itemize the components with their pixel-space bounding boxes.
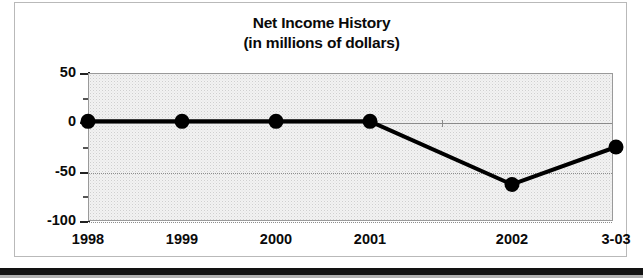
y-tick--100 [80, 221, 88, 223]
data-point-2002 [505, 177, 520, 192]
chart-subtitle: (in millions of dollars) [15, 33, 628, 53]
chart-frame: Net Income History (in millions of dolla… [14, 2, 627, 257]
page-bottom-rule [0, 268, 643, 275]
chart-page: Net Income History (in millions of dolla… [0, 0, 643, 278]
x-axis-label-1998: 1998 [48, 231, 128, 247]
data-point-2001 [363, 114, 378, 129]
x-axis-label-2001: 2001 [330, 231, 410, 247]
series-polyline [88, 121, 616, 184]
series-markers [81, 114, 624, 192]
x-axis-label-2000: 2000 [236, 231, 316, 247]
data-point-1998 [81, 114, 96, 129]
gridline--100 [89, 222, 612, 223]
data-point-2000 [269, 114, 284, 129]
x-axis-label-1999: 1999 [142, 231, 222, 247]
y-axis-label-0: 0 [24, 113, 76, 129]
chart-title: Net Income History [15, 13, 628, 33]
y-axis-label--100: -100 [24, 212, 76, 228]
y-tick--50 [80, 172, 88, 174]
data-point-3-03 [609, 140, 624, 155]
y-axis-label-50: 50 [24, 64, 76, 80]
data-point-1999 [175, 114, 190, 129]
series-line-chart [88, 73, 613, 221]
plot-wrapper [88, 73, 613, 221]
y-axis-label--50: -50 [24, 163, 76, 179]
x-axis-label-2002: 2002 [472, 231, 552, 247]
x-axis-label-3-03: 3-03 [576, 231, 643, 247]
y-tick-50 [80, 73, 88, 75]
title-block: Net Income History (in millions of dolla… [15, 13, 628, 53]
